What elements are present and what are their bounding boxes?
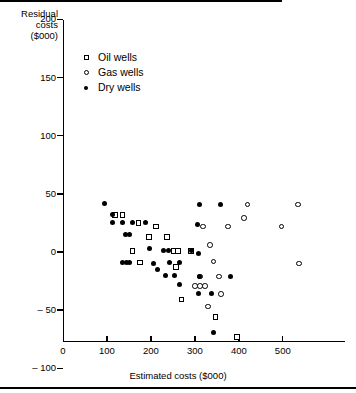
data-point-dry-wells xyxy=(211,330,216,335)
x-tick-200 xyxy=(150,336,151,342)
data-point-dry-wells xyxy=(228,274,233,279)
y-axis-line xyxy=(63,20,64,342)
y-tick-label-150: 150 xyxy=(16,72,56,83)
open-circle-icon xyxy=(84,70,89,75)
data-point-dry-wells xyxy=(218,202,223,207)
y-tick-50 xyxy=(57,193,63,194)
y-tick-label-0: 0 xyxy=(16,246,56,257)
data-point-oil-wells xyxy=(173,264,179,270)
y-tick-200 xyxy=(57,19,63,20)
open-square-icon xyxy=(84,55,89,60)
data-point-dry-wells xyxy=(163,273,168,278)
data-point-oil-wells xyxy=(179,297,185,303)
data-point-dry-wells xyxy=(120,220,125,225)
data-point-gas-wells xyxy=(205,304,211,310)
legend-label-dry-wells: Dry wells xyxy=(98,80,141,95)
data-point-gas-wells xyxy=(218,291,224,297)
data-point-dry-wells xyxy=(127,260,132,265)
y-tick--50 xyxy=(57,309,63,310)
data-point-dry-wells xyxy=(167,260,172,265)
data-point-dry-wells xyxy=(147,246,152,251)
y-tick-label--50: – 50 xyxy=(16,304,56,315)
data-point-oil-wells xyxy=(120,212,126,218)
x-axis-title: Estimated costs ($000) xyxy=(0,370,356,381)
data-point-oil-wells xyxy=(146,234,152,240)
data-point-dry-wells xyxy=(143,220,148,225)
x-tick-label-300: 300 xyxy=(175,345,215,356)
data-point-oil-wells xyxy=(130,248,136,254)
y-tick-label-200: 200 xyxy=(16,13,56,24)
x-tick-label-200: 200 xyxy=(131,345,171,356)
x-tick-300 xyxy=(194,336,195,342)
y-tick-100 xyxy=(57,135,63,136)
legend-label-oil-wells: Oil wells xyxy=(98,50,137,65)
data-point-gas-wells xyxy=(225,224,231,230)
data-point-dry-wells xyxy=(110,220,115,225)
y-tick-0 xyxy=(57,251,63,252)
x-tick-label-400: 400 xyxy=(219,345,259,356)
data-point-oil-wells xyxy=(153,224,159,230)
data-point-gas-wells xyxy=(211,259,217,265)
y-axis-title-line-3: ($000) xyxy=(31,30,58,41)
data-point-oil-wells xyxy=(213,314,219,320)
zero-reference-line xyxy=(0,0,282,2)
y-tick-label-100: 100 xyxy=(16,130,56,141)
data-point-dry-wells xyxy=(196,251,201,256)
data-point-dry-wells xyxy=(155,267,160,272)
x-tick-label-500: 500 xyxy=(263,345,303,356)
data-point-oil-wells xyxy=(164,234,170,240)
data-point-gas-wells xyxy=(241,215,247,221)
data-point-dry-wells xyxy=(197,202,202,207)
data-point-dry-wells xyxy=(196,291,201,296)
data-point-dry-wells xyxy=(172,273,177,278)
data-point-gas-wells xyxy=(216,274,222,280)
y-tick-label-50: 50 xyxy=(16,188,56,199)
filled-circle-icon xyxy=(84,86,88,90)
data-point-oil-wells xyxy=(137,260,143,266)
data-point-gas-wells xyxy=(245,202,251,208)
scatter-plot-figure: Residualcosts($000) – 100– 5005010015020… xyxy=(0,0,356,393)
x-tick-label-100: 100 xyxy=(87,345,127,356)
page-bottom-rule xyxy=(0,387,356,389)
legend-label-gas-wells: Gas wells xyxy=(98,65,144,80)
data-point-oil-wells xyxy=(175,248,181,254)
data-point-dry-wells xyxy=(127,232,132,237)
data-point-gas-wells xyxy=(200,224,206,230)
data-point-dry-wells xyxy=(151,261,156,266)
x-tick-100 xyxy=(106,336,107,342)
data-point-gas-wells xyxy=(207,242,213,248)
data-point-gas-wells xyxy=(296,261,302,267)
x-tick-500 xyxy=(282,336,283,342)
y-tick-150 xyxy=(57,77,63,78)
x-tick-label-0: 0 xyxy=(43,345,83,356)
data-point-gas-wells xyxy=(295,202,301,208)
data-point-dry-wells xyxy=(209,291,214,296)
data-point-oil-wells xyxy=(234,334,240,340)
data-point-gas-wells xyxy=(279,224,285,230)
data-point-gas-wells xyxy=(202,283,208,289)
data-point-oil-wells xyxy=(136,220,142,226)
data-point-dry-wells xyxy=(177,260,182,265)
data-point-dry-wells xyxy=(177,282,182,287)
y-tick--100 xyxy=(57,368,63,369)
data-point-dry-wells xyxy=(102,201,107,206)
data-point-dry-wells xyxy=(130,220,135,225)
